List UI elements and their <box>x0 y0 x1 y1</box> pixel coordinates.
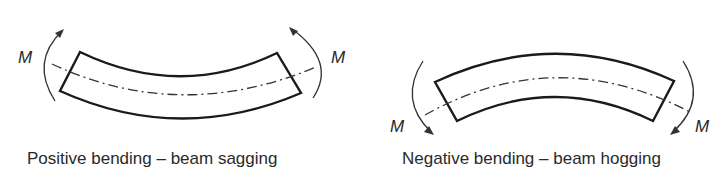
arrowhead-icon <box>424 126 434 135</box>
moment-arrow-left-negative <box>412 61 434 135</box>
positive-bending-figure: M M <box>18 27 346 119</box>
hogging-beam <box>435 54 674 121</box>
moment-arrow-right-negative <box>670 61 693 135</box>
moment-label-right-negative: M <box>695 117 710 136</box>
moment-label-left-positive: M <box>18 48 33 67</box>
caption-negative-bending: Negative bending – beam hogging <box>402 149 661 169</box>
caption-positive-bending: Positive bending – beam sagging <box>27 149 277 169</box>
sagging-beam <box>60 52 301 119</box>
negative-bending-figure: M M <box>390 54 710 136</box>
arrowhead-icon <box>289 27 298 36</box>
moment-label-right-positive: M <box>331 48 346 67</box>
moment-label-left-negative: M <box>390 117 405 136</box>
